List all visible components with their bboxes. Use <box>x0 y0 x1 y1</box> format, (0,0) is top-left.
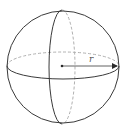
meridian-back-dashed <box>62 10 75 124</box>
equator-back-dashed <box>7 52 119 66</box>
center-point <box>61 65 64 68</box>
radius-label: r <box>89 54 94 64</box>
outer-circle <box>7 11 119 123</box>
meridian-front-solid <box>49 10 62 124</box>
equator-front-solid <box>7 66 119 79</box>
sphere-diagram: r <box>0 0 126 132</box>
